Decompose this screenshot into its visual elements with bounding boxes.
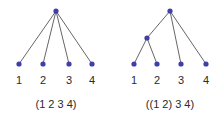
leaf-label: 2 — [40, 74, 46, 86]
leaf-label: 1 — [131, 74, 137, 86]
root-node — [53, 8, 58, 13]
leaf-label: 4 — [203, 74, 209, 86]
edge — [147, 38, 157, 64]
root-node — [167, 8, 172, 13]
internal-node — [144, 35, 149, 40]
edge — [134, 38, 147, 64]
tree-caption: (1 2 3 4) — [36, 98, 77, 110]
leaf-node — [131, 61, 136, 66]
edge — [56, 11, 92, 64]
tree-flat: 1 2 3 4 (1 2 3 4) — [16, 8, 95, 110]
leaf-label: 3 — [66, 74, 72, 86]
edge — [43, 11, 56, 64]
leaf-node — [89, 61, 94, 66]
leaf-node — [66, 61, 71, 66]
leaf-node — [154, 61, 159, 66]
tree-diagram-canvas: 1 2 3 4 (1 2 3 4) 1 2 3 4 ((1 2) 3 4) — [0, 0, 222, 122]
edge — [56, 11, 69, 64]
leaf-node — [178, 61, 183, 66]
leaf-node — [16, 61, 21, 66]
leaf-label: 3 — [178, 74, 184, 86]
edge — [19, 11, 56, 64]
leaf-node — [203, 61, 208, 66]
leaf-label: 4 — [89, 74, 95, 86]
tree-caption: ((1 2) 3 4) — [146, 98, 194, 110]
edge — [147, 11, 170, 38]
leaf-label: 1 — [16, 74, 22, 86]
tree-nested: 1 2 3 4 ((1 2) 3 4) — [131, 8, 209, 110]
leaf-node — [40, 61, 45, 66]
leaf-label: 2 — [154, 74, 160, 86]
